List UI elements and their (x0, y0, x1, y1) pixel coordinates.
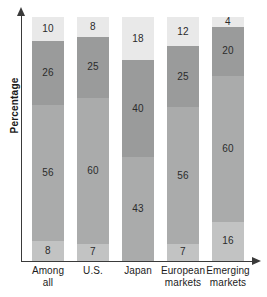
segment-value-label: 4 (225, 17, 231, 27)
segment-value-label: 12 (177, 27, 189, 37)
bar-segment: 60 (212, 76, 244, 222)
bar-segment: 60 (77, 98, 109, 244)
bar-segment: 43 (122, 157, 154, 261)
segment-value-label: 56 (177, 171, 189, 181)
segment-value-label: 16 (222, 236, 234, 246)
bar-segment: 12 (167, 17, 199, 46)
bar-japan: 184043 (122, 17, 154, 261)
segment-value-label: 25 (87, 62, 99, 72)
plot-area: 102656882560718404312255674206016 (22, 17, 254, 261)
bar-european-markets: 1225567 (167, 17, 199, 261)
category-label-line1: Japan (124, 265, 152, 276)
bar-segment: 16 (212, 222, 244, 261)
bar-segment: 8 (77, 17, 109, 37)
category-label-line1: European (161, 265, 205, 276)
bar-emerging-markets: 4206016 (212, 17, 244, 261)
bar-segment: 8 (32, 241, 64, 261)
segment-value-label: 60 (87, 166, 99, 176)
bar-segment: 7 (77, 244, 109, 261)
bar-segment: 26 (32, 41, 64, 104)
arrow-up-icon (17, 7, 25, 16)
segment-value-label: 20 (222, 46, 234, 56)
segment-value-label: 56 (42, 168, 54, 178)
y-axis-label: Percentage (9, 66, 20, 146)
category-label-emerging-markets: Emergingmarkets (200, 265, 256, 289)
category-label-line2: markets (200, 277, 256, 289)
segment-value-label: 7 (90, 247, 96, 257)
category-label-line1: Emerging (206, 265, 250, 276)
bar-segment: 7 (167, 244, 199, 261)
segment-value-label: 40 (132, 104, 144, 114)
segment-value-label: 60 (222, 144, 234, 154)
category-label-line2: all (20, 277, 76, 289)
bar-segment: 25 (167, 46, 199, 107)
segment-value-label: 26 (42, 68, 54, 78)
bar-u-s: 825607 (77, 17, 109, 261)
bar-segment: 20 (212, 27, 244, 76)
segment-value-label: 8 (45, 246, 51, 256)
x-axis-line (21, 261, 254, 262)
segment-value-label: 7 (180, 247, 186, 257)
bar-segment: 10 (32, 17, 64, 41)
bar-segment: 56 (167, 107, 199, 244)
segment-value-label: 10 (42, 24, 54, 34)
bar-segment: 40 (122, 60, 154, 157)
segment-value-label: 8 (90, 22, 96, 32)
bar-among-all: 1026568 (32, 17, 64, 261)
segment-value-label: 43 (132, 204, 144, 214)
segment-value-label: 18 (132, 34, 144, 44)
bar-segment: 4 (212, 17, 244, 27)
stacked-bar-chart: Percentage 10265688256071840431225567420… (0, 0, 267, 297)
bar-segment: 18 (122, 17, 154, 60)
category-label-line1: Among (32, 265, 64, 276)
category-label-line1: U.S. (83, 265, 103, 276)
bar-segment: 25 (77, 37, 109, 98)
bar-segment: 56 (32, 105, 64, 242)
segment-value-label: 25 (177, 72, 189, 82)
